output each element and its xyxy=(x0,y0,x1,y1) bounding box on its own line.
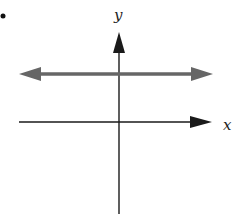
bullet-marker xyxy=(1,14,6,19)
left-arrow-icon xyxy=(19,67,41,81)
x-axis-arrow-icon xyxy=(190,116,212,128)
x-axis-label: x xyxy=(223,116,232,134)
y-axis-arrow-icon xyxy=(113,32,125,53)
coordinate-diagram: y x xyxy=(0,0,239,215)
horizontal-line xyxy=(19,67,213,81)
x-axis xyxy=(19,116,212,128)
right-arrow-icon xyxy=(191,67,213,81)
y-axis-label: y xyxy=(113,6,123,24)
y-axis xyxy=(113,32,125,214)
